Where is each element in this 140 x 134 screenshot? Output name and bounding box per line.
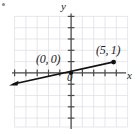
origin-tick-label: 0 bbox=[67, 72, 73, 83]
point-5-1-dot bbox=[111, 60, 116, 65]
label-origin-coordinates: (0, 0) bbox=[36, 53, 60, 65]
line-arrowhead-left bbox=[9, 81, 19, 86]
plot-svg bbox=[0, 0, 140, 134]
coordinate-plane-figure: (0, 0) (5, 1) y x 0 bbox=[0, 0, 140, 134]
axis-label-y: y bbox=[61, 1, 66, 12]
axis-label-x: x bbox=[127, 70, 132, 81]
label-point-5-1: (5, 1) bbox=[96, 44, 120, 56]
